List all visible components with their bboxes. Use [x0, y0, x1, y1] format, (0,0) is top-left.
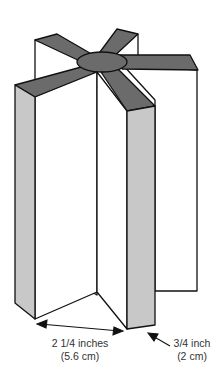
- front-right-face: [97, 72, 127, 329]
- front-left-face: [35, 72, 97, 319]
- depth-label-line1: 3/4 inch: [168, 337, 216, 350]
- left-side-panel: [15, 85, 35, 319]
- width-label-line2: (5.6 cm): [40, 350, 120, 363]
- depth-label: 3/4 inch (2 cm): [168, 337, 216, 363]
- depth-dimension-arrow: [148, 333, 170, 346]
- depth-label-line2: (2 cm): [168, 350, 216, 363]
- right-arm: [120, 55, 198, 70]
- center-hub: [77, 52, 127, 72]
- star-column-diagram: [0, 0, 216, 387]
- width-label: 2 1/4 inches (5.6 cm): [40, 337, 120, 363]
- width-label-line1: 2 1/4 inches: [40, 337, 120, 350]
- width-dimension-arrow: [37, 320, 123, 335]
- right-side-panel: [127, 106, 155, 329]
